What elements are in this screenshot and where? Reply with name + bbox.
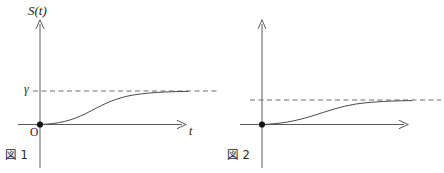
threshold-label-1: γ bbox=[24, 83, 29, 95]
curve-s-of-t bbox=[40, 91, 188, 124]
x-axis-label-1: t bbox=[189, 125, 192, 137]
origin-dot-2 bbox=[259, 121, 265, 127]
figure-caption-1: 図 1 bbox=[5, 148, 28, 162]
figure-panel-1: S(t) t γ O 図 1 bbox=[0, 0, 222, 173]
curve-s2-of-t bbox=[262, 101, 412, 125]
y-axis-label-1: S(t) bbox=[28, 4, 47, 17]
origin-label-1: O bbox=[30, 127, 38, 139]
figure-caption-2: 図 2 bbox=[227, 148, 250, 162]
plot-1 bbox=[0, 0, 222, 173]
y-axis-label-1-arg: (t) bbox=[35, 3, 47, 18]
plot-2 bbox=[222, 0, 444, 173]
figure-panel-2: S2(t) t γ2 O 図 2 bbox=[222, 0, 444, 173]
figure-row: S(t) t γ O 図 1 S2(t) t γ2 bbox=[0, 0, 444, 173]
threshold-label-1-base: γ bbox=[24, 82, 29, 96]
